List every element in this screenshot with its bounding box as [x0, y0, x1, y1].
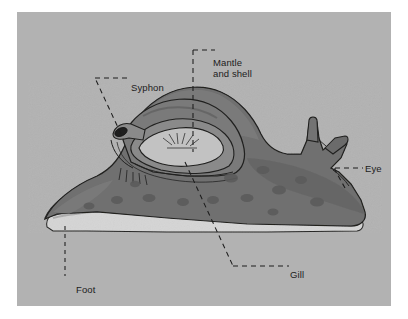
figure-root: Mantleand shell Syphon Eye Gill Foot	[0, 0, 408, 319]
diagram-panel: Mantleand shell Syphon Eye Gill Foot	[17, 12, 391, 306]
body-spot	[130, 181, 140, 187]
body-spot	[257, 166, 270, 174]
sea-slug-illustration	[17, 12, 391, 306]
body-spot	[241, 194, 254, 202]
body-spot	[143, 194, 156, 202]
label-mantle-and-shell: Mantleand shell	[213, 57, 252, 79]
label-syphon: Syphon	[131, 82, 164, 93]
label-gill: Gill	[290, 269, 304, 280]
body-spot	[272, 186, 286, 195]
body-spot	[310, 198, 324, 207]
body-spot	[111, 196, 123, 204]
rhinophore-posterior	[307, 117, 318, 142]
label-eye: Eye	[365, 163, 382, 174]
body-spot	[295, 176, 307, 184]
body-spot	[207, 196, 219, 204]
body-spot	[177, 198, 189, 206]
label-mantle-line2: and shell	[213, 68, 252, 79]
label-foot: Foot	[76, 284, 95, 295]
label-mantle-line1: Mantle	[213, 57, 242, 68]
body-spot	[84, 203, 95, 210]
body-spot	[224, 174, 238, 183]
body-spot	[268, 209, 279, 216]
